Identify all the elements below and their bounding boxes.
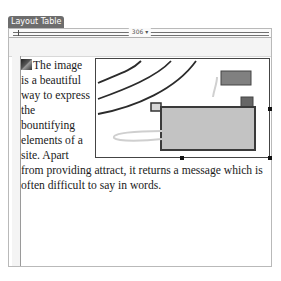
resize-handle-bottom[interactable] — [180, 156, 184, 160]
width-ruler[interactable]: 306 ▾ — [9, 29, 271, 38]
illustration-graphic — [96, 59, 269, 157]
table-header-band — [9, 38, 271, 57]
layout-cell[interactable]: The image is a beautiful way to express … — [20, 56, 271, 266]
resize-handle-corner[interactable] — [268, 156, 272, 160]
image-placeholder-icon — [21, 59, 32, 70]
text-content[interactable]: The image is a beautiful way to express … — [21, 58, 266, 193]
layout-table-tab[interactable]: Layout Table — [8, 16, 64, 28]
selected-image[interactable] — [95, 58, 270, 158]
width-dropdown[interactable]: 306 ▾ — [129, 28, 151, 36]
ruler-tick — [18, 30, 19, 36]
resize-handle-right[interactable] — [268, 107, 272, 111]
layout-table[interactable]: 306 ▾ The image is — [8, 28, 272, 267]
